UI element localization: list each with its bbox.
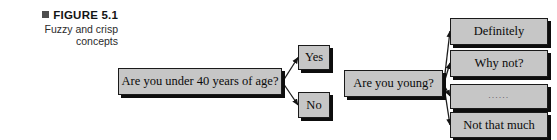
node-answer-definitely[interactable]: Definitely <box>450 18 548 45</box>
node-question-are-you-young[interactable]: Are you young? <box>344 70 443 97</box>
node-label: Are you under 40 years of age? <box>122 75 279 88</box>
connector-age-to-yes <box>283 58 298 82</box>
figure-number-label: FIGURE 5.1 <box>53 9 118 21</box>
node-answer-no[interactable]: No <box>298 92 330 118</box>
node-answer-ellipsis[interactable]: ...... <box>450 84 548 109</box>
node-label: Why not? <box>475 57 524 70</box>
node-label: Not that much <box>463 119 535 132</box>
figure-caption-text: Fuzzy and crisp concepts <box>14 23 118 47</box>
figure-container: FIGURE 5.1 Fuzzy and crisp concepts Are … <box>0 0 557 140</box>
node-label: ...... <box>489 92 510 100</box>
figure-caption-title-row: FIGURE 5.1 <box>14 8 118 21</box>
node-label: Definitely <box>474 25 525 38</box>
node-answer-not-that-much[interactable]: Not that much <box>450 112 548 138</box>
node-answer-yes[interactable]: Yes <box>298 45 330 70</box>
figure-caption: FIGURE 5.1 Fuzzy and crisp concepts <box>14 8 118 47</box>
square-bullet-icon <box>42 11 49 18</box>
node-label: Are you young? <box>353 77 434 90</box>
node-question-under-40[interactable]: Are you under 40 years of age? <box>118 68 282 95</box>
node-label: No <box>306 99 321 112</box>
node-answer-why-not[interactable]: Why not? <box>450 50 548 77</box>
connector-age-to-no <box>283 83 298 105</box>
node-label: Yes <box>305 51 323 64</box>
